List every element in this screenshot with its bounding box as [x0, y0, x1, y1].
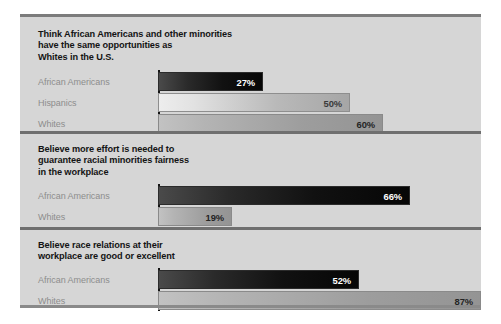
bar-row: Whites 19%: [20, 207, 481, 226]
bar-value-label: 52%: [333, 274, 351, 285]
bar-whites[interactable]: 19%: [158, 207, 232, 226]
bar-row: African Americans 27%: [20, 72, 481, 91]
bar-hispanics[interactable]: 50%: [158, 93, 350, 112]
infographic-figure: Think African Americans and other minori…: [20, 14, 481, 308]
bar-category-label: Whites: [38, 119, 65, 129]
bar-row: African Americans 52%: [20, 270, 481, 289]
bar-african-americans[interactable]: 27%: [158, 72, 263, 91]
bar-value-label: 27%: [237, 76, 255, 87]
bottom-rule: [20, 305, 481, 308]
panel-race-relations: Believe race relations at their workplac…: [20, 230, 481, 305]
bar-category-label: Whites: [38, 212, 65, 222]
bar-african-americans[interactable]: 66%: [158, 186, 410, 205]
bar-african-americans[interactable]: 52%: [158, 270, 359, 289]
panel-heading: Believe more effort is needed to guarant…: [38, 144, 189, 178]
bar-category-label: African Americans: [38, 77, 110, 87]
bar-category-label: Hispanics: [38, 98, 77, 108]
bar-category-label: African Americans: [38, 191, 110, 201]
panel-heading: Believe race relations at their workplac…: [38, 240, 175, 263]
bar-category-label: Whites: [38, 296, 65, 306]
bar-row: African Americans 66%: [20, 186, 481, 205]
bar-row: Hispanics 50%: [20, 93, 481, 112]
bar-value-label: 66%: [384, 190, 402, 201]
bar-value-label: 60%: [357, 118, 375, 129]
panel-effort-needed: Believe more effort is needed to guarant…: [20, 134, 481, 227]
panel-opportunities: Think African Americans and other minori…: [20, 17, 481, 131]
panel-heading: Think African Americans and other minori…: [38, 29, 232, 63]
bar-category-label: African Americans: [38, 275, 110, 285]
bar-value-label: 50%: [324, 97, 342, 108]
bar-value-label: 19%: [206, 211, 224, 222]
